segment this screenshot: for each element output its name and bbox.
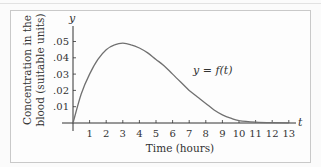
y-axis-label-line-1: Concentration in the xyxy=(21,13,34,126)
x-tick-label: 9 xyxy=(219,128,225,139)
y-tick-label: .04 xyxy=(53,52,69,63)
x-axis-label: Time (hours) xyxy=(146,142,214,154)
curve-annotation: y = f(t) xyxy=(192,64,233,77)
y-axis-label-line-2: blood (suitable units) xyxy=(34,13,47,126)
y-tick-label: .02 xyxy=(53,85,69,96)
x-tick-label: 5 xyxy=(153,128,159,139)
ticks: 12345678910111213.01.02.03.04.05 xyxy=(53,36,295,139)
x-tick-label: 10 xyxy=(233,128,246,139)
x-tick-label: 3 xyxy=(120,128,126,139)
x-tick-label: 6 xyxy=(169,128,175,139)
axes xyxy=(62,26,296,131)
x-tick-label: 13 xyxy=(282,128,295,139)
y-axis-label: Concentration in the blood (suitable uni… xyxy=(14,20,54,120)
x-tick-label: 11 xyxy=(249,128,262,139)
x-axis-symbol: t xyxy=(298,116,303,129)
x-tick-label: 7 xyxy=(186,128,192,139)
concentration-curve xyxy=(73,43,289,123)
y-tick-label: .05 xyxy=(53,36,69,47)
x-tick-label: 4 xyxy=(136,128,142,139)
y-tick-label: .03 xyxy=(53,69,69,80)
y-tick-label: .01 xyxy=(53,101,69,112)
x-tick-label: 1 xyxy=(86,128,92,139)
x-tick-label: 12 xyxy=(266,128,279,139)
y-axis-symbol: y xyxy=(68,12,76,25)
x-tick-label: 8 xyxy=(203,128,209,139)
x-tick-label: 2 xyxy=(103,128,109,139)
